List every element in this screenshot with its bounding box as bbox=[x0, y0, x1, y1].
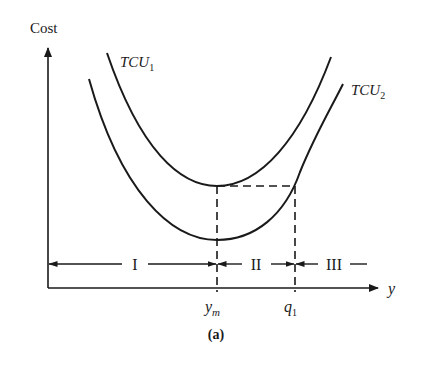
cost-diagram: Cost y TCU1 TCU2 ym q1 I II III (a) bbox=[0, 0, 421, 367]
tcu1-curve bbox=[107, 53, 331, 186]
region-i-label: I bbox=[132, 256, 137, 273]
y-axis-label: Cost bbox=[30, 20, 58, 36]
tcu1-label: TCU1 bbox=[120, 54, 154, 73]
ym-label: ym bbox=[203, 298, 220, 318]
figure-caption: (a) bbox=[208, 327, 225, 343]
tcu2-label: TCU2 bbox=[351, 82, 385, 101]
region-ii-label: II bbox=[251, 256, 262, 273]
region-iii-label: III bbox=[326, 256, 342, 273]
x-axis-label: y bbox=[386, 280, 396, 298]
q1-label: q1 bbox=[284, 298, 297, 318]
